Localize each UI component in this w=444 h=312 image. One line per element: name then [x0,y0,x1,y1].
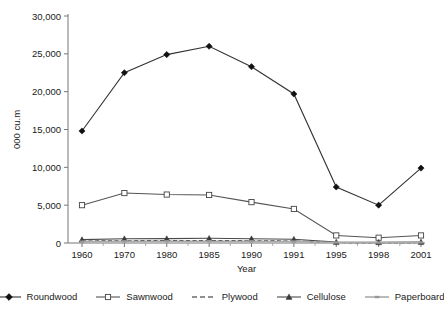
series-paperboard [80,241,423,242]
legend-marker-cellulose-icon [276,291,302,303]
legend-label: Sawnwood [126,291,172,302]
x-axis-tick-label: 1991 [283,249,304,260]
plot-area: 05,00010,00015,00020,00025,00030,000000 … [0,0,440,278]
legend-item-roundwood[interactable]: Roundwood [0,291,77,303]
data-point-marker [248,64,254,70]
x-axis-tick-label: 1960 [71,249,92,260]
y-axis-tick-label: 5,000 [37,200,61,211]
data-point-marker [164,192,169,197]
data-point-marker [79,203,84,208]
legend-marker-roundwood-icon [0,291,22,303]
legend-marker-sawnwood-icon [95,291,121,303]
data-point-marker [418,233,423,238]
y-axis-tick-label: 10,000 [32,162,61,173]
data-point-marker [291,206,296,211]
legend-label: Paperboard [395,291,444,302]
line-chart-svg: 05,00010,00015,00020,00025,00030,000000 … [0,0,440,278]
legend-item-sawnwood[interactable]: Sawnwood [95,291,172,303]
y-axis-tick-label: 15,000 [32,124,61,135]
data-point-marker [207,192,212,197]
x-axis-tick-label: 1980 [156,249,177,260]
y-axis-tick-label: 20,000 [32,86,61,97]
data-point-marker [334,233,339,238]
series-roundwood [79,43,424,208]
data-point-marker [206,43,212,49]
x-axis-tick-label: 2001 [410,249,431,260]
data-point-marker [122,190,127,195]
y-axis-tick-label: 0 [56,238,61,249]
legend-item-paperboard[interactable]: Paperboard [364,291,444,303]
legend-label: Plywood [222,291,258,302]
y-axis-title: 000 cu.m [11,110,22,149]
y-axis-tick-label: 30,000 [32,11,61,22]
data-point-marker [164,51,170,57]
legend-marker-paperboard-icon [364,291,390,303]
data-point-marker [333,184,339,190]
chart-legend: RoundwoodSawnwoodPlywoodCellulosePaperbo… [0,281,440,312]
y-axis-tick-label: 25,000 [32,48,61,59]
legend-marker-plywood-icon [191,291,217,303]
legend-item-plywood[interactable]: Plywood [191,291,258,303]
legend-label: Roundwood [27,291,78,302]
x-axis-tick-label: 1970 [114,249,135,260]
series-sawnwood [79,190,423,240]
x-axis-tick-label: 1985 [199,249,220,260]
x-axis-tick-label: 1998 [368,249,389,260]
data-point-marker [291,91,297,97]
x-axis-tick-label: 1995 [326,249,347,260]
data-point-marker [249,200,254,205]
x-axis-tick-label: 1990 [241,249,262,260]
legend-label: Cellulose [307,291,346,302]
x-axis-title: Year [237,263,256,274]
legend-item-cellulose[interactable]: Cellulose [276,291,346,303]
